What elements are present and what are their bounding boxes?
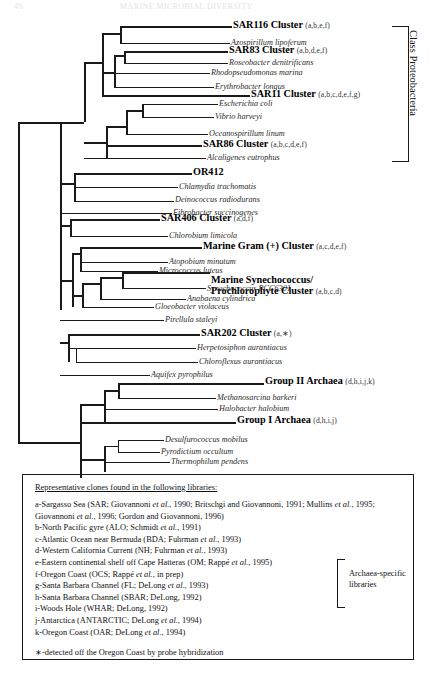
legend-item-k: k-Oregon Coast (OAR; DeLong et al., 1994…: [35, 627, 403, 639]
taxon-label-marine-gram-positive: Marine Gram (+) Cluster (a,c,d,e,f): [203, 241, 346, 251]
taxon-label-oceanospirillum: Oceanospirillum linum: [209, 130, 285, 138]
taxon-label-gloeobacter: Gloeobacter violaceus: [155, 303, 229, 311]
taxon-label-sar202: SAR202 Cluster (a,∗): [201, 328, 292, 338]
legend-item-j: j-Antarctica (ANTARCTIC; DeLong et al., …: [35, 615, 403, 627]
taxon-label-sar83: SAR83 Cluster (a,b,d,e,f): [229, 45, 327, 55]
taxon-label-pyrodictium: Pyrodictium occultum: [161, 448, 233, 456]
archaea-libraries-bracket: [337, 559, 345, 608]
taxon-label-chloroflexus: Chloroflexus aurantiacus: [199, 358, 282, 366]
taxon-label-chlamydia: Chlamydia trachomatis: [179, 183, 256, 191]
taxon-label-roseobacter: Roseobacter denitrificans: [229, 59, 313, 67]
legend-item-g: g-Santa Barbara Channel (FL; DeLong et a…: [35, 580, 403, 592]
legend-item-i: i-Woods Hole (WHAR; DeLong, 1992): [35, 603, 403, 615]
taxon-label-sar406: SAR406 Cluster (a,d,f): [161, 213, 253, 223]
taxon-label-synechococcus: Synechococcus PCC6301: [207, 285, 291, 293]
taxon-label-sar116: SAR116 Cluster (a,b,e,f): [233, 20, 330, 30]
legend-item-h: h-Santa Barbara Channel (SBAR; DeLong, 1…: [35, 592, 403, 604]
taxon-label-chlorobium: Chlorobium limicola: [169, 232, 237, 240]
legend-item-d: d-Western California Current (NH; Fuhrma…: [35, 545, 403, 557]
archaea-libraries-label: Archaea-specific libraries: [349, 569, 406, 590]
taxon-label-sar11: SAR11 Cluster (a,b,c,d,e,f,g): [251, 89, 360, 99]
taxon-label-sar86: SAR86 Cluster (a,b,c,d,e,f): [203, 139, 307, 149]
legend-item-a: a-Sargasso Sea (SAR; Giovannoni et al., …: [35, 499, 403, 522]
legend-item-f: f-Oregon Coast (OCS; Rappé et al., in pr…: [35, 569, 403, 581]
legend-item-e: e-Eastern continental shelf off Cape Hat…: [35, 557, 403, 569]
legend-item-b: b-North Pacific gyre (ALO; Schmidt et al…: [35, 522, 403, 534]
taxon-label-pirellula: Pirellula staleyi: [165, 316, 217, 324]
taxon-label-herpetosiphon: Herpetosiphon aurantiacus: [197, 344, 287, 352]
taxon-label-methanosarcina: Methanosarcina barkeri: [217, 394, 297, 402]
taxon-label-halobacter: Halobacter halobium: [219, 405, 289, 413]
legend-note-probe-hybridization: ∗-detected off the Oregon Coast by probe…: [35, 647, 403, 657]
taxon-label-vibrio: Vibrio harveyi: [215, 113, 262, 121]
taxon-label-desulfurococcus: Desulfurococcus mobilus: [165, 436, 248, 444]
taxon-label-thermophilum: Thermophilum pendens: [171, 458, 248, 466]
legend-item-c: c-Atlantic Ocean near Bermuda (BDA; Fuhr…: [35, 534, 403, 546]
taxon-label-aquifex: Aquifex pyrophilus: [151, 371, 213, 379]
legend-title: Representative clones found in the follo…: [35, 483, 403, 492]
legend-box: Representative clones found in the follo…: [22, 474, 414, 660]
taxon-label-group-i-archaea: Group I Archaea (d,h,i,j): [237, 415, 337, 425]
proteobacteria-bracket: [392, 26, 409, 162]
taxon-label-alcaligenes: Alcaligenes eutrophus: [207, 154, 280, 162]
taxon-label-or412: OR412: [193, 167, 224, 177]
taxon-label-rhodopseudomonas: Rhodopseudomonas marina: [211, 69, 303, 77]
taxon-label-escherichia: Escherichia coli: [219, 100, 272, 108]
taxon-label-group-ii-archaea: Group II Archaea (d,h,i,j,k): [265, 376, 375, 386]
taxon-label-deinococcus: Deinococcus radiodurans: [175, 196, 260, 204]
taxon-label-atopobium: Atopobium minutum: [169, 258, 236, 266]
figure-phylogenetic-tree: 46 MARINE MICROBIAL DIVERSITY: [0, 0, 436, 673]
proteobacteria-bracket-label: Class Proteobacteria: [408, 30, 419, 156]
